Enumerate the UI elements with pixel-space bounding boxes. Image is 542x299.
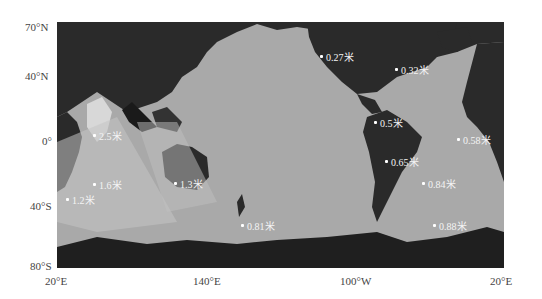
y-label-40n: 40°N — [25, 70, 48, 82]
marker-dot-icon — [320, 55, 323, 58]
y-label-80s: 80°S — [30, 260, 52, 272]
marker-dot-icon — [385, 160, 388, 163]
tide-marker: 0.27米 — [320, 49, 354, 64]
marker-dot-icon — [241, 224, 244, 227]
tide-marker: 0.81米 — [241, 218, 275, 233]
marker-dot-icon — [433, 224, 436, 227]
tide-marker: 0.5米 — [374, 115, 403, 130]
marker-dot-icon — [174, 182, 177, 185]
marker-dot-icon — [93, 183, 96, 186]
tide-marker: 2.5米 — [93, 128, 122, 143]
tide-marker: 0.32米 — [395, 62, 429, 77]
x-label-20e-left: 20°E — [45, 275, 67, 287]
y-label-40s: 40°S — [30, 200, 52, 212]
tide-marker: 0.65米 — [385, 154, 419, 169]
marker-dot-icon — [422, 182, 425, 185]
marker-dot-icon — [66, 198, 69, 201]
x-label-140e: 140°E — [193, 275, 221, 287]
marker-dot-icon — [457, 138, 460, 141]
world-map: 0.27米 0.32米 0.5米 0.58米 0.65米 0.84米 0.88米… — [57, 22, 504, 268]
tide-marker: 1.2米 — [66, 192, 95, 207]
y-label-70n: 70°N — [25, 21, 48, 33]
tide-marker: 0.58米 — [457, 132, 491, 147]
y-label-0: 0° — [42, 135, 52, 147]
marker-dot-icon — [374, 121, 377, 124]
tide-marker: 0.84米 — [422, 176, 456, 191]
marker-dot-icon — [93, 134, 96, 137]
tide-marker: 0.88米 — [433, 218, 467, 233]
x-label-20e-right: 20°E — [490, 275, 512, 287]
x-label-100w: 100°W — [340, 275, 371, 287]
tide-marker: 1.3米 — [174, 176, 203, 191]
tide-marker: 1.6米 — [93, 177, 122, 192]
marker-dot-icon — [395, 68, 398, 71]
